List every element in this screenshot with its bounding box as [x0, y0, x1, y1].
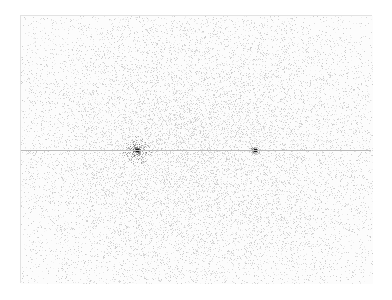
- horizontal-line: [21, 150, 371, 151]
- image-frame: [20, 15, 372, 283]
